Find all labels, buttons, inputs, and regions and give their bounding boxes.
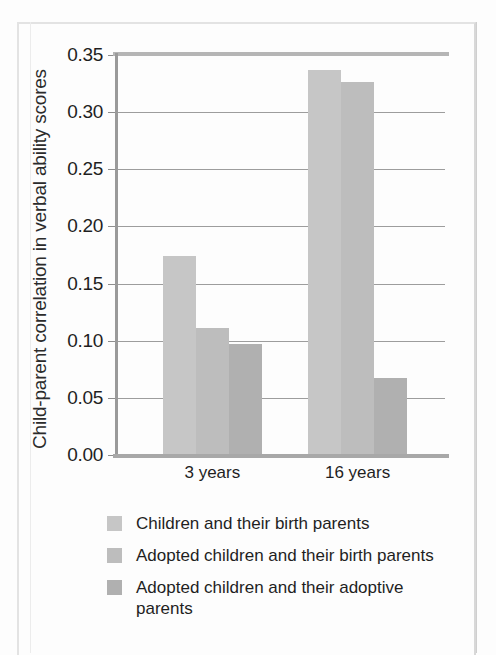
chart-legend: Children and their birth parentsAdopted … <box>107 513 477 630</box>
y-axis-tick-label: 0.05 <box>67 386 103 408</box>
bar <box>341 82 374 455</box>
legend-item-label: Adopted children and their birth parents <box>136 545 434 566</box>
bar <box>196 328 229 455</box>
y-axis-tick-label: 0.20 <box>67 215 103 237</box>
y-axis-tick-mark <box>108 226 115 227</box>
bar <box>163 256 196 455</box>
bar <box>229 344 262 455</box>
legend-swatch <box>107 516 122 531</box>
gridline <box>115 112 445 113</box>
y-axis-tick-mark <box>108 341 115 342</box>
y-axis-tick-label: 0.15 <box>67 272 103 294</box>
y-axis-tick-label: 0.30 <box>67 101 103 123</box>
bar <box>374 378 407 455</box>
legend-item: Adopted children and their birth parents <box>107 545 477 566</box>
y-axis-tick-mark <box>108 284 115 285</box>
bar-chart-figure: Child-parent correlation in verbal abili… <box>0 0 496 655</box>
legend-swatch <box>107 580 122 595</box>
legend-item-label: Adopted children and their adoptive pare… <box>136 577 456 619</box>
y-axis-tick-mark <box>108 112 115 113</box>
gridline <box>115 226 445 227</box>
plot-area: 0.000.050.100.150.200.250.300.35 3 years… <box>115 55 445 455</box>
plot-top-spine <box>113 52 449 56</box>
legend-item: Children and their birth parents <box>107 513 477 534</box>
y-axis-tick-mark <box>108 169 115 170</box>
legend-swatch <box>107 548 122 563</box>
legend-item-label: Children and their birth parents <box>136 513 369 534</box>
y-axis-tick-mark <box>108 398 115 399</box>
scanned-page: Child-parent correlation in verbal abili… <box>0 0 496 655</box>
x-axis-spine <box>113 454 449 458</box>
y-axis-tick-label: 0.35 <box>67 44 103 66</box>
y-axis-tick-label: 0.25 <box>67 158 103 180</box>
x-axis-tick-label: 3 years <box>184 463 240 483</box>
y-axis-spine <box>115 53 118 457</box>
y-axis-tick-label: 0.10 <box>67 329 103 351</box>
gridline <box>115 169 445 170</box>
y-axis-tick-label: 0.00 <box>67 444 103 466</box>
y-axis-title: Child-parent correlation in verbal abili… <box>29 49 51 469</box>
x-axis-tick-label: 16 years <box>325 463 390 483</box>
legend-item: Adopted children and their adoptive pare… <box>107 577 477 619</box>
bar <box>308 70 341 455</box>
